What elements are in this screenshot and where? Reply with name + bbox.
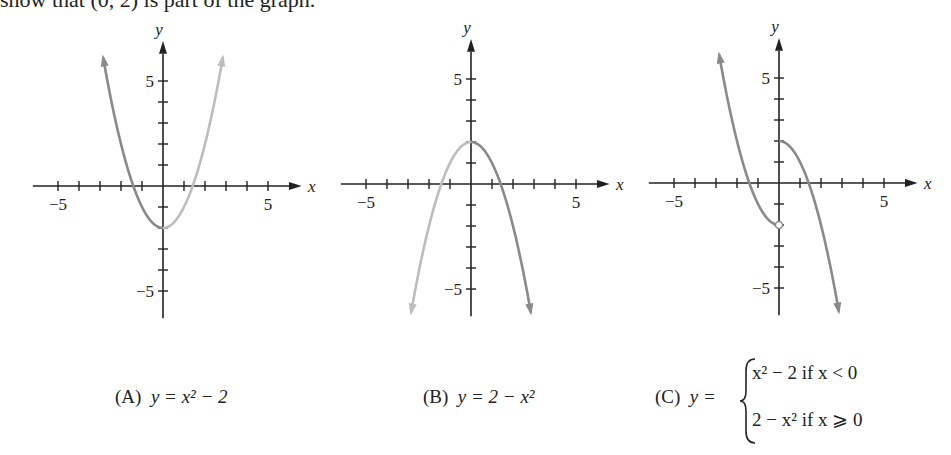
svg-text:x: x: [923, 174, 932, 193]
caption-a-formula: y = x² − 2: [151, 386, 228, 407]
graph-c: −555−5xy: [649, 17, 932, 315]
svg-text:5: 5: [572, 193, 581, 212]
curve: [163, 57, 223, 228]
caption-c-piece1: x² − 2 if x < 0: [752, 362, 857, 384]
curve-arrow-icon: [409, 303, 417, 316]
caption-b-formula: y = 2 − x²: [458, 386, 535, 407]
x-arrow-icon: [289, 182, 302, 190]
svg-text:x: x: [615, 175, 624, 194]
open-circle-icon: [776, 222, 783, 229]
svg-text:y: y: [769, 17, 779, 36]
caption-c: (C) y =: [655, 386, 716, 408]
svg-text:5: 5: [454, 70, 463, 89]
curve-arrow-icon: [833, 302, 841, 315]
svg-text:x: x: [307, 177, 316, 196]
svg-text:−5: −5: [444, 280, 462, 299]
curve-arrow-icon: [717, 51, 725, 64]
curve: [103, 57, 163, 228]
x-arrow-icon: [905, 179, 918, 187]
svg-text:−5: −5: [665, 192, 683, 211]
svg-text:5: 5: [762, 69, 771, 88]
graph-a: −555−5xy: [33, 20, 316, 318]
svg-text:−5: −5: [357, 193, 375, 212]
svg-text:5: 5: [264, 195, 273, 214]
svg-text:−5: −5: [136, 282, 154, 301]
svg-text:−5: −5: [752, 279, 770, 298]
caption-c-label: (C): [655, 386, 680, 407]
curve: [471, 142, 531, 313]
curve: [411, 142, 471, 313]
svg-text:−5: −5: [49, 195, 67, 214]
svg-text:5: 5: [880, 192, 889, 211]
y-arrow-icon: [159, 41, 167, 54]
y-arrow-icon: [775, 38, 783, 51]
svg-text:y: y: [153, 20, 163, 39]
y-arrow-icon: [467, 39, 475, 52]
curve: [719, 54, 779, 225]
svg-text:5: 5: [146, 72, 155, 91]
curve-arrow-icon: [217, 54, 225, 67]
caption-c-lhs: y =: [690, 386, 716, 407]
curve-arrow-icon: [101, 54, 109, 67]
caption-b: (B) y = 2 − x²: [423, 386, 535, 408]
caption-c-piece2: 2 − x² if x ⩾ 0: [752, 408, 863, 431]
curve: [779, 141, 839, 312]
graph-b: −555−5xy: [341, 18, 624, 316]
caption-a: (A) y = x² − 2: [115, 386, 228, 408]
caption-a-label: (A): [115, 386, 141, 407]
caption-b-label: (B): [423, 386, 448, 407]
x-arrow-icon: [597, 180, 610, 188]
svg-text:y: y: [461, 18, 471, 37]
curve-arrow-icon: [525, 303, 533, 316]
